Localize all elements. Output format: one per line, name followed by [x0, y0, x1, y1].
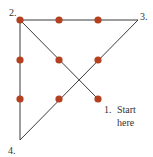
dot: [55, 16, 62, 23]
dot: [16, 16, 23, 23]
label-step-2: 2.: [9, 7, 17, 18]
dot: [16, 56, 23, 63]
label-step-3: 3.: [140, 11, 148, 22]
dot: [55, 56, 62, 63]
dot: [94, 16, 101, 23]
dot: [55, 95, 62, 102]
label-step-1-start: Start: [117, 104, 136, 115]
dot: [94, 95, 101, 102]
label-step-1-number: 1.: [104, 104, 112, 115]
dot: [16, 95, 23, 102]
label-step-1-here: here: [117, 117, 135, 128]
label-step-4: 4.: [8, 145, 16, 156]
dot: [94, 56, 101, 63]
nine-dot-diagram: 2. 3. 4. 1. Start here: [0, 0, 153, 157]
